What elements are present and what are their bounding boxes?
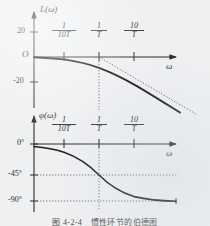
magnitude-xtick-1-over-10T-numerator: 1 (52, 22, 76, 30)
phase-xtick-1-over-T-numerator: 1 (91, 116, 107, 124)
phase-ytick-label-0deg: 0° (17, 139, 24, 147)
phase-ytick-label-neg45deg: -45° (8, 170, 22, 178)
phase-xtick-1-over-T-denominator: T (91, 124, 107, 133)
magnitude-xtick-10-over-T-numerator: 10 (124, 22, 144, 30)
phase-xtick-label-10-over-T: 10 T (124, 116, 144, 133)
magnitude-xtick-label-1-over-10T: 1 10T (52, 22, 76, 39)
magnitude-ytick-label-neg20: -20 (13, 77, 24, 85)
phase-x-axis-label: ω (166, 149, 172, 158)
phase-xtick-10-over-T-numerator: 10 (124, 116, 144, 124)
magnitude-y-axis-label: L(ω) (40, 5, 57, 14)
magnitude-ytick-label-20: 20 (17, 27, 25, 35)
phase-curve (34, 147, 176, 202)
magnitude-x-axis-label: ω (166, 62, 172, 71)
magnitude-xtick-label-1-over-T: 1 T (91, 22, 107, 39)
magnitude-xtick-10-over-T-denominator: T (124, 30, 144, 39)
phase-xtick-label-1-over-T: 1 T (91, 116, 107, 133)
bode-plot-figure: L(ω) 20 -20 O ω 1 10T 1 T 10 T φ(ω) 0° -… (0, 0, 210, 226)
magnitude-xtick-1-over-T-denominator: T (91, 30, 107, 39)
figure-caption: 图 4-2-4 惯性环节的伯德图 (0, 216, 210, 226)
magnitude-xtick-label-10-over-T: 10 T (124, 22, 144, 39)
phase-xtick-1-over-10T-numerator: 1 (52, 116, 76, 124)
magnitude-asymptote-line (99, 57, 196, 114)
phase-xtick-10-over-T-denominator: T (124, 124, 144, 133)
phase-xtick-label-1-over-10T: 1 10T (52, 116, 76, 133)
phase-ytick-label-neg90deg: -90° (8, 196, 22, 204)
magnitude-origin-label: O (22, 50, 29, 59)
magnitude-xtick-1-over-10T-denominator: 10T (52, 30, 76, 39)
magnitude-xtick-1-over-T-numerator: 1 (91, 22, 107, 30)
phase-xtick-1-over-10T-denominator: 10T (52, 124, 76, 133)
magnitude-curve (34, 57, 180, 112)
